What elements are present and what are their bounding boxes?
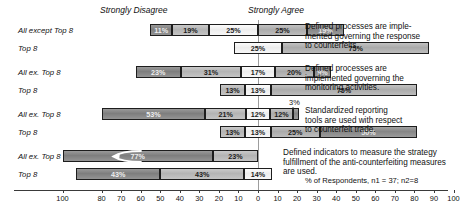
bar-row: 53%21%12%12% xyxy=(102,108,299,120)
chart-root: Strongly Disagree Strongly Agree All exc… xyxy=(0,0,463,213)
segment-value-label: 23% xyxy=(151,68,165,77)
row-label: All ex. Top 8 xyxy=(18,110,96,119)
axis-tick xyxy=(160,190,161,193)
bar-segment: 19% xyxy=(172,24,209,36)
axis-tick xyxy=(278,190,279,193)
axis-tick xyxy=(356,190,357,193)
bar-row: 23%31%17%20%9% xyxy=(136,66,332,78)
axis-tick-label: 70 xyxy=(391,194,399,203)
segment-value-label: 77% xyxy=(131,152,145,161)
axis-anchor-strongly-disagree: Strongly Disagree xyxy=(100,5,168,15)
bar-segment: 13% xyxy=(245,126,270,138)
row-label: Top 8 xyxy=(18,128,96,137)
segment-value-label: 25% xyxy=(226,26,240,35)
segment-value-label: 23% xyxy=(228,152,242,161)
segment-value-label: 12% xyxy=(274,110,288,119)
axis-tick-label: 100 xyxy=(56,194,68,203)
axis-line xyxy=(14,190,448,191)
axis-tick xyxy=(454,190,455,193)
bar-segment xyxy=(293,108,299,120)
bar-segment: 25% xyxy=(209,24,258,36)
row-label: Top 8 xyxy=(18,86,96,95)
bar-segment: 23% xyxy=(213,150,258,162)
bar-segment: 23% xyxy=(136,66,181,78)
axis-tick-label: 50 xyxy=(156,194,164,203)
segment-value-label: 12% xyxy=(251,110,265,119)
axis-tick xyxy=(63,190,64,193)
segment-value-label: 19% xyxy=(183,26,197,35)
axis-tick xyxy=(317,190,318,193)
axis-tick-label: 30 xyxy=(313,194,321,203)
bar-row: 43%43%14% xyxy=(76,168,272,180)
axis-tick xyxy=(336,190,337,193)
axis-tick xyxy=(180,190,181,193)
axis-tick-label: 60 xyxy=(371,194,379,203)
axis-tick-label: 30 xyxy=(195,194,203,203)
axis-tick-label: 20 xyxy=(215,194,223,203)
axis-tick-label: 20 xyxy=(293,194,301,203)
axis-tick xyxy=(375,190,376,193)
axis-tick xyxy=(141,190,142,193)
bar-segment: 43% xyxy=(160,168,244,180)
axis-tick xyxy=(395,190,396,193)
axis-tick-label: 50 xyxy=(352,194,360,203)
axis-tick xyxy=(297,190,298,193)
axis-tick-label: 0 xyxy=(256,194,260,203)
bar-segment: 25% xyxy=(258,24,307,36)
axis-tick-label: 100 xyxy=(447,194,459,203)
segment-value-label: 14% xyxy=(251,170,265,179)
bar-segment: 31% xyxy=(181,66,242,78)
segment-value-label: 43% xyxy=(111,170,125,179)
axis-tick xyxy=(219,190,220,193)
axis-tick-label: 10 xyxy=(234,194,242,203)
axis-tick xyxy=(102,190,103,193)
bar-segment: 11% xyxy=(150,24,172,36)
segment-value-label: 20% xyxy=(287,68,301,77)
row-label: Top 8 xyxy=(18,44,96,53)
bar-segment: 77% xyxy=(63,150,214,162)
statement-text: Defined indicators to measure the strate… xyxy=(283,148,463,177)
axis-tick xyxy=(414,190,415,193)
segment-value-label: 53% xyxy=(146,110,160,119)
segment-value-label: 13% xyxy=(251,86,265,95)
bar-row: 77%23% xyxy=(63,150,259,162)
statement-text: Defined processes are implemented govern… xyxy=(305,64,463,93)
segment-value-label: 25% xyxy=(275,26,289,35)
segment-value-label: 31% xyxy=(204,68,218,77)
bar-segment: 17% xyxy=(241,66,274,78)
segment-value-label: 13% xyxy=(225,128,239,137)
segment-value-label: 21% xyxy=(219,110,233,119)
axis-tick xyxy=(258,190,259,193)
row-label: All ex. Top 8 xyxy=(18,68,96,77)
row-label: All except Top 8 xyxy=(18,26,96,35)
axis-tick-label: 80 xyxy=(410,194,418,203)
axis-tick xyxy=(434,190,435,193)
axis-tick-label: 60 xyxy=(137,194,145,203)
segment-callout-label: 3% xyxy=(289,98,300,107)
axis-tick-label: 80 xyxy=(97,194,105,203)
axis-tick-label: 70 xyxy=(117,194,125,203)
bar-segment: 13% xyxy=(245,84,270,96)
statement-text: Standardized reporting tools are used wi… xyxy=(305,106,463,135)
segment-value-label: 13% xyxy=(251,128,265,137)
axis-tick-label: 90 xyxy=(430,194,438,203)
segment-value-label: 11% xyxy=(154,26,168,35)
axis-tick-label: 10 xyxy=(273,194,281,203)
segment-value-label: 13% xyxy=(225,86,239,95)
bar-segment: 43% xyxy=(76,168,160,180)
axis-anchor-strongly-agree: Strongly Agree xyxy=(248,5,304,15)
axis-tick xyxy=(199,190,200,193)
axis-tick-label: 40 xyxy=(332,194,340,203)
bar-segment: 12% xyxy=(270,108,293,120)
footnote: % of Respondents, n1 = 37; n2=8 xyxy=(305,176,418,185)
bar-segment: 21% xyxy=(205,108,246,120)
bar-segment: 13% xyxy=(220,126,245,138)
segment-value-label: 25% xyxy=(251,44,265,53)
bar-segment: 12% xyxy=(246,108,269,120)
bar-segment: 14% xyxy=(244,168,271,180)
axis-tick-label: 40 xyxy=(176,194,184,203)
axis-tick xyxy=(238,190,239,193)
bar-segment: 25% xyxy=(234,42,283,54)
segment-value-label: 25% xyxy=(288,128,302,137)
segment-value-label: 17% xyxy=(251,68,265,77)
